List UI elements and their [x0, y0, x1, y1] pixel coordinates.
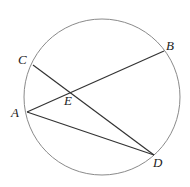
label-b: B [166, 38, 174, 53]
chord-ab [27, 51, 164, 112]
label-c: C [18, 52, 27, 67]
chord-cd [33, 65, 154, 155]
diagram-canvas: C B A E D [0, 0, 190, 187]
label-e: E [63, 93, 72, 108]
label-d: D [152, 155, 163, 170]
chord-ad [27, 112, 154, 155]
circle [24, 19, 180, 175]
label-a: A [10, 105, 19, 120]
